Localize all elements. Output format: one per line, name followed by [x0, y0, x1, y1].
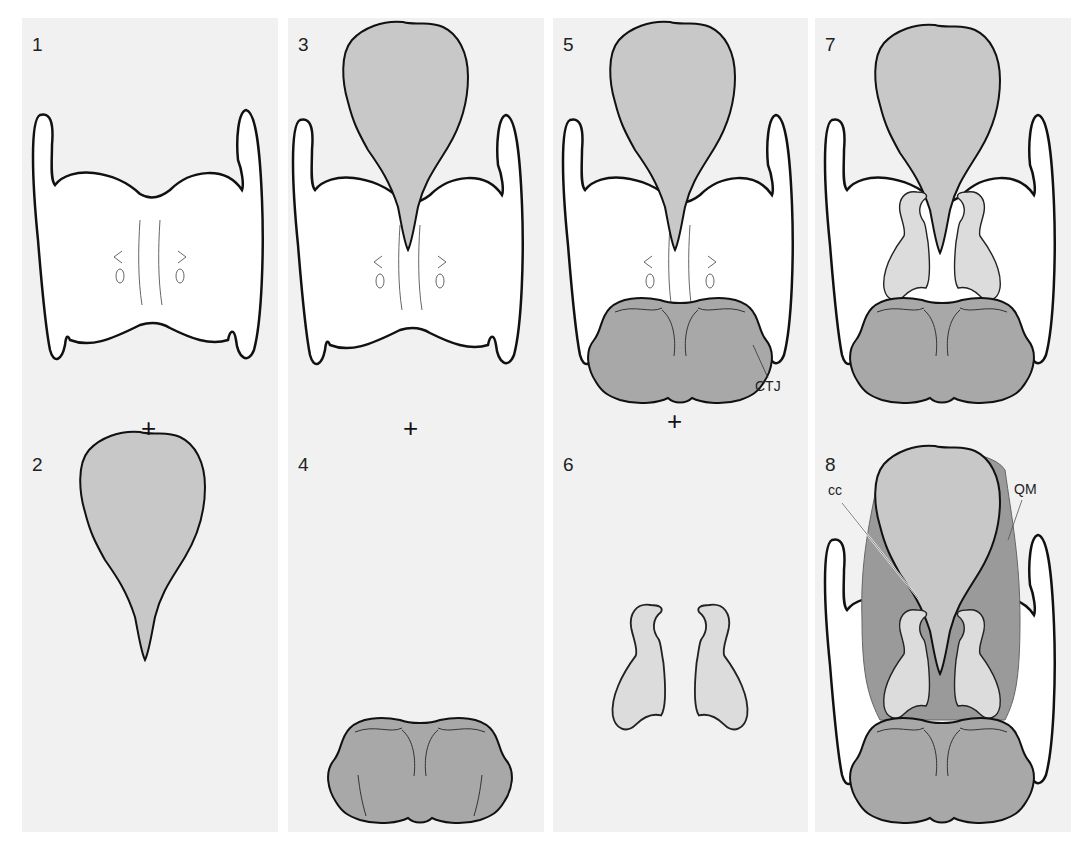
cricoid-cartilage-5: [588, 298, 772, 403]
arytenoid-cartilages-6: [613, 605, 748, 730]
label-ctj: CTJ: [755, 378, 781, 394]
step-number-6: 6: [563, 454, 574, 476]
thyroid-cartilage-1: [33, 110, 263, 359]
step-number-1: 1: [32, 34, 43, 56]
cricoid-cartilage-8: [850, 718, 1034, 823]
epiglottis-2: [80, 432, 205, 660]
cricoid-cartilage-7: [850, 298, 1034, 403]
step-number-8: 8: [825, 454, 836, 476]
cricoid-cartilage-4: [328, 718, 512, 823]
plus-sign-3: +: [667, 408, 682, 434]
plus-sign-2: +: [403, 415, 418, 441]
step-number-7: 7: [825, 34, 836, 56]
anatomy-drawing: [0, 0, 1073, 843]
label-cc: cc: [828, 482, 842, 498]
step-number-3: 3: [298, 34, 309, 56]
step-number-2: 2: [32, 454, 43, 476]
step-number-5: 5: [563, 34, 574, 56]
step-number-4: 4: [298, 454, 309, 476]
label-qm: QM: [1014, 481, 1037, 497]
plus-sign-1: +: [141, 415, 156, 441]
